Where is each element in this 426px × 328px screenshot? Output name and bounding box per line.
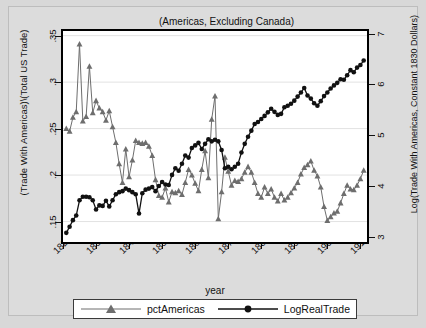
right-tick-label: 5	[375, 133, 386, 138]
data-point	[309, 96, 314, 101]
data-point	[299, 90, 304, 95]
left-axis-title: (Trade With Americas)\(Total US Trade)	[18, 13, 29, 213]
data-point	[176, 169, 181, 174]
data-point	[93, 98, 99, 104]
data-point	[203, 142, 208, 147]
right-tick: 6	[373, 84, 387, 85]
right-tick: 3	[373, 237, 387, 238]
data-point	[242, 169, 248, 175]
triangle-marker	[80, 302, 142, 316]
data-point	[116, 161, 122, 167]
data-point	[104, 199, 109, 204]
data-point	[295, 94, 300, 99]
data-point	[94, 207, 99, 212]
x-tick-mark	[162, 244, 163, 249]
right-tick-mark	[369, 135, 375, 136]
right-tick: 5	[373, 135, 387, 136]
data-point	[143, 139, 149, 145]
data-point	[157, 184, 162, 189]
data-point	[113, 139, 119, 145]
data-point	[74, 213, 79, 218]
right-tick: 7	[373, 34, 387, 35]
data-point	[255, 191, 261, 197]
data-point	[137, 211, 142, 216]
data-point	[219, 189, 225, 195]
right-axis-title: Log(Trade With Americas, Constant 1830 D…	[409, 9, 419, 219]
data-point	[176, 188, 182, 194]
data-point	[212, 93, 218, 99]
data-point	[292, 98, 297, 103]
chart-legend: pctAmericas LogRealTrade	[73, 299, 357, 319]
data-point	[90, 198, 95, 203]
data-point	[90, 110, 96, 116]
data-point	[325, 90, 330, 95]
data-point	[107, 204, 112, 209]
data-point	[342, 78, 347, 83]
data-point	[358, 63, 363, 68]
data-point	[314, 173, 320, 179]
data-point	[338, 200, 344, 206]
x-tick-mark	[294, 244, 295, 249]
data-point	[341, 191, 347, 197]
data-point	[182, 179, 188, 185]
data-point	[186, 155, 191, 160]
circle-marker	[217, 302, 279, 316]
x-tick-mark	[261, 244, 262, 249]
data-point	[149, 152, 155, 158]
data-point	[344, 182, 350, 188]
data-point	[262, 184, 268, 190]
data-point	[166, 199, 172, 205]
x-axis-title: year	[61, 285, 369, 296]
data-point	[110, 198, 115, 203]
x-tick-mark	[228, 244, 229, 249]
data-point	[279, 112, 284, 117]
legend-label-logrealtrade: LogRealTrade	[284, 303, 350, 315]
data-point	[361, 58, 366, 63]
data-point	[96, 105, 102, 111]
data-point	[215, 216, 221, 222]
right-tick-label: 4	[375, 183, 386, 188]
data-point	[192, 180, 198, 186]
data-point	[67, 224, 72, 229]
data-point	[133, 192, 138, 197]
data-point	[106, 108, 112, 114]
data-point	[186, 166, 192, 172]
right-tick-label: 7	[375, 31, 386, 36]
data-point	[196, 188, 202, 194]
data-point	[272, 194, 278, 200]
x-tick-mark	[63, 244, 64, 249]
legend-entry-logrealtrade[interactable]: LogRealTrade	[217, 302, 350, 316]
data-point	[245, 164, 251, 170]
data-point	[345, 73, 350, 78]
data-point	[262, 114, 267, 119]
data-point	[239, 150, 244, 155]
legend-entry-pctamericas[interactable]: pctAmericas	[80, 302, 205, 316]
data-point	[252, 179, 258, 185]
data-point	[83, 113, 89, 119]
data-point	[242, 142, 247, 147]
right-tick-label: 3	[375, 234, 386, 239]
x-tick-mark	[327, 244, 328, 249]
x-tick-mark	[195, 244, 196, 249]
data-point	[266, 110, 271, 115]
right-tick-mark	[369, 186, 375, 187]
data-point	[318, 184, 324, 190]
data-point	[246, 134, 251, 139]
data-point	[64, 231, 69, 236]
data-point	[129, 157, 135, 163]
data-point	[70, 114, 76, 120]
data-point	[334, 208, 340, 214]
right-tick-mark	[369, 237, 375, 238]
data-point	[295, 179, 301, 185]
right-tick: 4	[373, 186, 387, 187]
chart-annotation: (Americas, Excluding Canada)	[159, 16, 294, 27]
data-point	[238, 176, 244, 182]
series-line-pctamericas	[66, 44, 363, 221]
chart-figure: (Americas, Excluding Canada) (Trade With…	[0, 0, 426, 328]
data-point	[170, 173, 175, 178]
data-point	[77, 41, 83, 47]
data-point	[180, 161, 185, 166]
data-point	[216, 139, 221, 144]
data-point	[150, 185, 155, 190]
data-point	[335, 81, 340, 86]
